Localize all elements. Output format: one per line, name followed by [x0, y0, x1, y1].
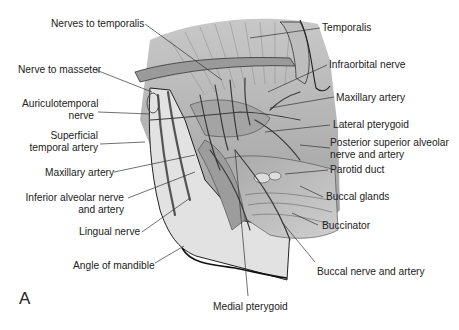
- label-angle-of-mandible: Angle of mandible: [73, 260, 155, 272]
- label-maxillary-artery-right: Maxillary artery: [336, 92, 405, 104]
- label-buccal-glands: Buccal glands: [326, 191, 389, 203]
- label-lateral-pterygoid: Lateral pterygoid: [333, 119, 409, 131]
- label-medial-pterygoid: Medial pterygoid: [213, 301, 288, 313]
- label-superficial-temporal-artery: Superficial temporal artery: [22, 130, 98, 154]
- label-auriculotemporal-nerve: Auriculotemporal nerve: [22, 98, 94, 122]
- label-buccal-nerve-and-artery: Buccal nerve and artery: [317, 266, 425, 278]
- panel-letter: A: [19, 289, 30, 309]
- label-posterior-superior-alveolar-nerve-and-artery: Posterior superior alveolar nerve and ar…: [330, 137, 449, 161]
- label-buccinator: Buccinator: [322, 220, 370, 232]
- anatomy-figure: Nerves to temporalis Nerve to masseter A…: [0, 0, 459, 330]
- label-inferior-alveolar-nerve-and-artery: Inferior alveolar nerve and artery: [20, 192, 124, 216]
- label-infraorbital-nerve: Infraorbital nerve: [329, 59, 405, 71]
- label-temporalis: Temporalis: [322, 22, 371, 34]
- label-nerve-to-masseter: Nerve to masseter: [18, 64, 101, 76]
- label-nerves-to-temporalis: Nerves to temporalis: [51, 18, 144, 30]
- label-lingual-nerve: Lingual nerve: [79, 226, 140, 238]
- dissection-illustration: [0, 0, 459, 330]
- label-parotid-duct: Parotid duct: [330, 164, 384, 176]
- label-maxillary-artery-left: Maxillary artery: [45, 167, 114, 179]
